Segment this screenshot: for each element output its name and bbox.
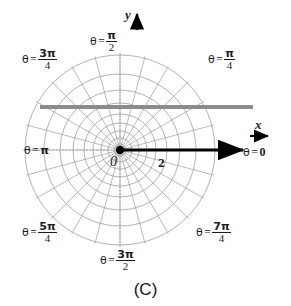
x-axis-label: x: [255, 118, 262, 131]
theta-zero-value: 0: [260, 145, 266, 159]
theta-label-5pi-4: θ=5π4: [22, 221, 57, 244]
fraction-3pi-4: 3π4: [38, 48, 56, 71]
theta-label-0: θ=0: [243, 146, 266, 158]
theta-symbol: θ: [22, 53, 29, 66]
theta-symbol: θ: [196, 226, 203, 239]
theta-label-pi-2: θ=π2: [90, 30, 117, 53]
theta-symbol: θ: [208, 53, 215, 66]
figure-caption: (C): [0, 280, 291, 300]
theta-symbol: θ: [243, 146, 250, 159]
theta-symbol: θ: [24, 144, 31, 157]
equals-sign: =: [107, 254, 117, 266]
equals-sign: =: [97, 35, 107, 47]
theta-label-pi-4: θ=π4: [208, 48, 235, 71]
fraction-pi-2: π2: [106, 30, 117, 53]
theta-symbol: θ: [22, 226, 29, 239]
equals-sign: =: [203, 226, 213, 238]
theta-symbol: θ: [100, 254, 107, 267]
theta-label-pi: θ=π: [24, 145, 49, 157]
equals-sign: =: [29, 226, 39, 238]
equals-sign: =: [29, 53, 39, 65]
y-axis-label: y: [125, 8, 131, 21]
equals-sign: =: [31, 144, 41, 156]
theta-label-7pi-4: θ=7π4: [196, 221, 231, 244]
fraction-3pi-2: 3π2: [116, 249, 134, 272]
theta-label-3pi-2: θ=3π2: [100, 249, 135, 272]
fraction-7pi-4: 7π4: [212, 221, 230, 244]
radial-tick-label-2: 2: [158, 156, 165, 170]
fraction-pi-4: π4: [224, 48, 235, 71]
theta-label-3pi-4: θ=3π4: [22, 48, 57, 71]
origin-label: 0: [110, 155, 117, 169]
pi-symbol: π: [40, 144, 49, 157]
equals-sign: =: [250, 145, 260, 159]
fraction-5pi-4: 5π4: [38, 221, 56, 244]
polar-coordinate-figure: y x 0 2 θ=π2 θ=3π4 θ=π4 θ=π θ=0 θ=5π4 θ=…: [0, 0, 291, 306]
theta-zero-ray: [116, 146, 243, 154]
theta-symbol: θ: [90, 35, 97, 48]
equals-sign: =: [215, 53, 225, 65]
